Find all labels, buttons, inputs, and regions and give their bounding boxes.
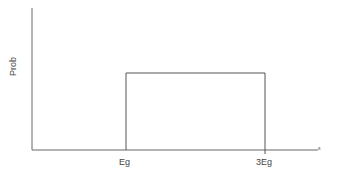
- x-tick-3eg: 3Eg: [256, 157, 272, 167]
- plot-canvas: [0, 0, 337, 174]
- y-axis-label: Prob: [8, 57, 18, 76]
- x-tick-eg: Eg: [119, 157, 130, 167]
- distribution-box: [126, 73, 265, 150]
- x-axis-end-label: s: [318, 145, 321, 151]
